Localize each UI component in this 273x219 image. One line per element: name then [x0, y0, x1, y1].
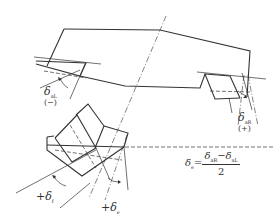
- right-toe-sign: (+): [238, 124, 251, 133]
- rotated-wheel-c: [104, 126, 128, 147]
- toe-formula: δe= δaR−δaL 2: [185, 150, 240, 177]
- front-right-angle-label: +δe: [101, 198, 120, 215]
- left-wheel-outline: [36, 61, 86, 76]
- left-toe-label: δaL: [44, 82, 57, 99]
- formula-lhs: δe: [185, 157, 194, 168]
- formula-fraction: δaR−δaL 2: [202, 150, 240, 177]
- front-left-angle-label: +δf: [36, 187, 54, 204]
- rotated-wheel-a: [55, 115, 96, 162]
- formula-denominator: 2: [202, 165, 240, 177]
- left-toe-sign: (−): [44, 98, 57, 107]
- formula-numerator: δaR−δaL: [202, 150, 240, 165]
- formula-equals: =: [194, 157, 202, 168]
- right-toe-label: δaR: [238, 108, 251, 125]
